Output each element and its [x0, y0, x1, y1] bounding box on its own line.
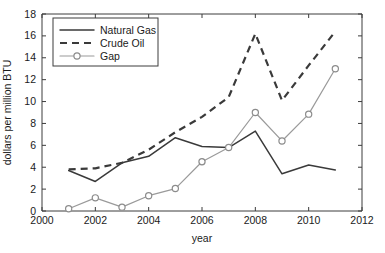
x-tick-label: 2008 [244, 214, 268, 226]
y-tick-label: 18 [24, 8, 36, 20]
x-tick-label: 2004 [137, 214, 161, 226]
data-point-marker [172, 185, 178, 191]
x-tick-label: 2006 [190, 214, 214, 226]
y-tick-label: 12 [24, 73, 36, 85]
legend-swatch-marker [74, 53, 80, 59]
data-point-marker [279, 138, 285, 144]
legend-label: Gap [100, 50, 120, 62]
x-tick-label: 2002 [84, 214, 108, 226]
legend-label: Crude Oil [100, 37, 144, 49]
data-point-marker [146, 193, 152, 199]
data-point-marker [119, 204, 125, 210]
data-point-marker [226, 144, 232, 150]
y-tick-label: 2 [30, 183, 36, 195]
y-tick-label: 4 [30, 161, 36, 173]
data-point-marker [306, 111, 312, 117]
data-point-marker [66, 206, 72, 212]
chart-figure: 2000200220042006200820102012 02468101214… [0, 0, 385, 253]
y-tick-label: 0 [30, 205, 36, 217]
data-point-marker [92, 195, 98, 201]
x-axis-title: year [192, 232, 213, 244]
x-tick-label: 2010 [297, 214, 321, 226]
y-tick-label: 10 [24, 95, 36, 107]
y-tick-label: 6 [30, 139, 36, 151]
data-point-marker [332, 66, 338, 72]
chart-legend: Natural GasCrude OilGap [53, 18, 158, 66]
x-tick-label: 2012 [350, 214, 374, 226]
data-point-marker [199, 159, 205, 165]
line-chart-svg: 2000200220042006200820102012 02468101214… [0, 0, 385, 253]
y-tick-label: 14 [24, 51, 36, 63]
y-tick-label: 8 [30, 117, 36, 129]
y-tick-label: 16 [24, 29, 36, 41]
legend-label: Natural Gas [100, 24, 156, 36]
data-point-marker [252, 109, 258, 115]
y-axis-title: dollars per million BTU [1, 60, 13, 166]
